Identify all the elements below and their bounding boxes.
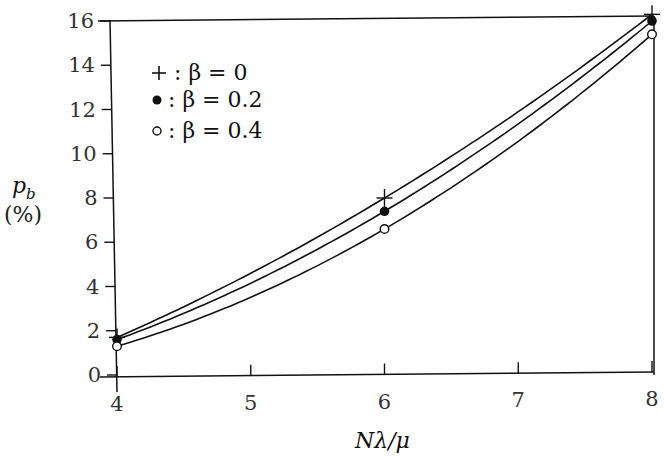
legend-label: : β = 0 (174, 60, 248, 85)
open-circle-marker-icon (153, 127, 161, 135)
open-circle-marker-icon (648, 30, 657, 39)
open-circle-marker-icon (380, 225, 389, 234)
y-tick-label: 16 (67, 9, 94, 33)
filled-circle-marker-icon (153, 96, 162, 105)
y-tick-label: 6 (85, 230, 98, 254)
x-axis-line (100, 372, 654, 377)
x-tick-label: 8 (645, 387, 658, 411)
y-axis: 0246810121416 (67, 9, 117, 387)
y-axis-title: p b (%) (4, 173, 42, 227)
x-axis-title: Nλ/μ (354, 428, 410, 453)
x-tick-label: 7 (512, 388, 525, 412)
x-tick-label: 6 (378, 390, 391, 414)
legend-label: : β = 0.4 (168, 118, 263, 143)
filled-circle-marker-icon (380, 206, 390, 216)
y-tick-label: 10 (70, 142, 97, 166)
y-axis-unit: (%) (4, 202, 42, 227)
x-tick-label: 4 (110, 392, 123, 416)
x-tick-label: 5 (244, 391, 257, 415)
y-axis-symbol: p (12, 173, 26, 198)
top-border (98, 16, 654, 21)
legend: : β = 0 : β = 0.2 : β = 0.4 (152, 60, 263, 143)
x-axis: 45678 (110, 361, 658, 416)
y-tick-label: 12 (69, 98, 96, 122)
data-markers (109, 5, 660, 350)
legend-item-beta-0: : β = 0 (152, 60, 248, 85)
filled-circle-marker-icon (647, 16, 657, 26)
open-circle-marker-icon (113, 342, 122, 351)
y-tick-label: 2 (87, 319, 100, 343)
legend-item-beta-0.4: : β = 0.4 (153, 118, 263, 143)
legend-item-beta-0.2: : β = 0.2 (153, 87, 263, 112)
y-tick-label: 14 (68, 53, 95, 77)
y-tick-label: 0 (88, 363, 101, 387)
y-axis-subscript: b (26, 185, 36, 203)
y-tick-label: 8 (84, 186, 97, 210)
chart-canvas: 0246810121416 45678 : β = 0 : β = 0.2 : … (0, 0, 664, 460)
y-tick-label: 4 (86, 275, 99, 299)
legend-label: : β = 0.2 (168, 87, 263, 112)
